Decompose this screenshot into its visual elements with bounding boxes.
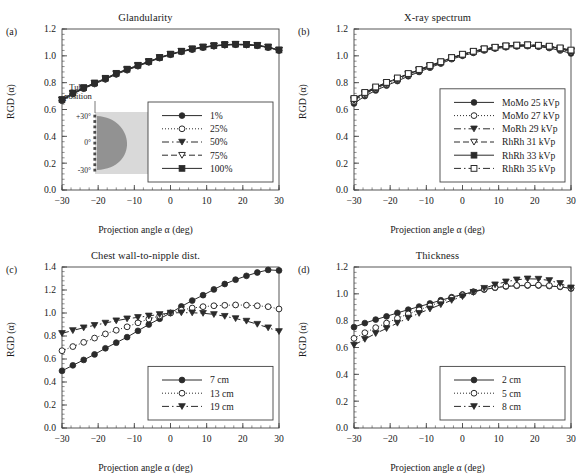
svg-text:-30°: -30° [78, 166, 91, 175]
panel-a-ylabel: RGD (α) [5, 59, 16, 145]
panel-b-ylabel: RGD (α) [297, 59, 308, 145]
panel-a-xlabel: Projection angle α (deg) [0, 224, 291, 235]
svg-text:0.4: 0.4 [44, 131, 56, 142]
svg-text:20: 20 [238, 433, 248, 444]
panel-b-xlabel: Projection angle α (deg) [292, 224, 583, 235]
svg-text:100%: 100% [210, 163, 232, 174]
svg-text:0°: 0° [84, 138, 91, 147]
svg-text:10: 10 [202, 433, 212, 444]
panel-d-ylabel: RGD (α) [297, 297, 308, 383]
svg-text:10: 10 [202, 195, 212, 206]
svg-text:0.6: 0.6 [336, 342, 348, 353]
svg-text:13 cm: 13 cm [210, 388, 234, 399]
svg-text:1.0: 1.0 [44, 307, 56, 318]
panel-c-plot: 0.00.20.40.60.81.01.21.4−30−20−100102030… [0, 238, 291, 476]
svg-text:0.4: 0.4 [336, 131, 348, 142]
svg-text:0.4: 0.4 [44, 376, 56, 387]
svg-text:RhRh 35 kVp: RhRh 35 kVp [502, 163, 556, 174]
panel-c-chest-wall-to-nipple: (c) Chest wall-to-nipple dist. 0.00.20.4… [0, 238, 291, 476]
svg-text:0.8: 0.8 [336, 315, 348, 326]
legend: 1%25%50%75%100% [148, 102, 273, 182]
svg-text:−10: −10 [127, 195, 142, 206]
svg-text:1.0: 1.0 [336, 288, 348, 299]
svg-text:−20: −20 [91, 195, 106, 206]
svg-text:0: 0 [168, 195, 173, 206]
svg-text:−10: −10 [419, 195, 434, 206]
svg-text:1.2: 1.2 [336, 261, 348, 272]
svg-text:−10: −10 [419, 433, 434, 444]
svg-text:30: 30 [566, 433, 576, 444]
svg-text:0.0: 0.0 [336, 184, 348, 195]
panel-b-plot: 0.00.20.40.60.81.01.2−30−20−100102030MoM… [292, 0, 583, 238]
svg-text:−30: −30 [346, 195, 361, 206]
svg-text:MoMo 25 kVp: MoMo 25 kVp [502, 97, 560, 108]
svg-text:19 cm: 19 cm [210, 401, 234, 412]
svg-text:0.4: 0.4 [336, 369, 348, 380]
svg-text:MoRh 29 kVp: MoRh 29 kVp [502, 123, 558, 134]
svg-text:0.6: 0.6 [44, 104, 56, 115]
panel-a-plot: 0.00.20.40.60.81.01.2−30−20−100102030Tub… [0, 0, 291, 238]
panel-b-xray-spectrum: (b) X-ray spectrum 0.00.20.40.60.81.01.2… [292, 0, 583, 238]
svg-text:30: 30 [566, 195, 576, 206]
svg-text:0.6: 0.6 [336, 104, 348, 115]
svg-text:20: 20 [238, 195, 248, 206]
svg-text:30: 30 [274, 433, 284, 444]
svg-text:0.0: 0.0 [44, 422, 56, 433]
legend: MoMo 25 kVpMoMo 27 kVpMoRh 29 kVpRhRh 31… [440, 89, 565, 182]
svg-text:RhRh 31 kVp: RhRh 31 kVp [502, 136, 556, 147]
svg-text:7 cm: 7 cm [210, 374, 229, 385]
svg-text:1.4: 1.4 [44, 261, 56, 272]
svg-text:1.2: 1.2 [44, 23, 56, 34]
svg-text:0: 0 [460, 195, 465, 206]
svg-text:0.8: 0.8 [336, 77, 348, 88]
svg-text:−10: −10 [127, 433, 142, 444]
svg-text:20: 20 [530, 433, 540, 444]
svg-text:10: 10 [494, 195, 504, 206]
svg-text:0.0: 0.0 [336, 422, 348, 433]
panel-d-plot: 0.00.20.40.60.81.01.2−30−20−1001020302 c… [292, 238, 583, 476]
svg-text:75%: 75% [210, 150, 228, 161]
panel-c-ylabel: RGD (α) [5, 297, 16, 383]
svg-text:0.6: 0.6 [44, 353, 56, 364]
legend: 2 cm5 cm8 cm [440, 366, 565, 420]
svg-text:30: 30 [274, 195, 284, 206]
svg-text:−20: −20 [383, 433, 398, 444]
svg-text:20: 20 [530, 195, 540, 206]
svg-text:0: 0 [168, 433, 173, 444]
panel-a-glandularity: (a) Glandularity 0.00.20.40.60.81.01.2−3… [0, 0, 291, 238]
figure-four-panel-rgd: (a) Glandularity 0.00.20.40.60.81.01.2−3… [0, 0, 583, 476]
svg-text:−20: −20 [383, 195, 398, 206]
panel-d-thickness: (d) Thickness 0.00.20.40.60.81.01.2−30−2… [292, 238, 583, 476]
svg-text:5 cm: 5 cm [502, 388, 521, 399]
svg-text:0.2: 0.2 [336, 396, 348, 407]
svg-text:0.2: 0.2 [44, 399, 56, 410]
svg-text:0.8: 0.8 [44, 77, 56, 88]
svg-text:1%: 1% [210, 110, 223, 121]
panel-c-xlabel: Projection angle α (deg) [0, 462, 291, 473]
svg-text:1.0: 1.0 [336, 50, 348, 61]
svg-text:−20: −20 [91, 433, 106, 444]
svg-text:−30: −30 [54, 195, 69, 206]
svg-text:1.0: 1.0 [44, 50, 56, 61]
svg-text:50%: 50% [210, 136, 228, 147]
svg-text:0.0: 0.0 [44, 184, 56, 195]
svg-text:0.2: 0.2 [44, 158, 56, 169]
svg-text:8 cm: 8 cm [502, 401, 521, 412]
svg-text:RhRh 33 kVp: RhRh 33 kVp [502, 150, 556, 161]
svg-text:MoMo 27 kVp: MoMo 27 kVp [502, 110, 560, 121]
svg-text:2 cm: 2 cm [502, 374, 521, 385]
svg-text:0.2: 0.2 [336, 158, 348, 169]
svg-text:−30: −30 [54, 433, 69, 444]
svg-text:0.8: 0.8 [44, 330, 56, 341]
svg-text:10: 10 [494, 433, 504, 444]
svg-text:−30: −30 [346, 433, 361, 444]
svg-text:25%: 25% [210, 123, 228, 134]
svg-text:0: 0 [460, 433, 465, 444]
panel-d-xlabel: Projection angle α (deg) [292, 462, 583, 473]
svg-text:1.2: 1.2 [44, 284, 56, 295]
svg-text:+30°: +30° [76, 112, 91, 121]
svg-text:1.2: 1.2 [336, 23, 348, 34]
legend: 7 cm13 cm19 cm [148, 366, 273, 420]
